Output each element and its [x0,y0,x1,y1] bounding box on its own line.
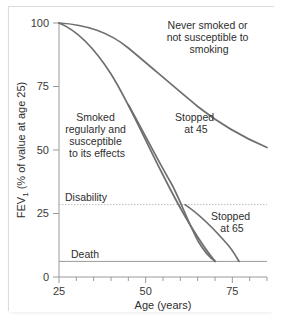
annotation-stopped-at-45-line-1: Stopped [175,111,214,123]
annotation-smoked-regularly-line-4: to its effects [69,147,125,159]
x-tick-label-75: 75 [226,285,238,297]
y-axis-title-rest: (% of value at age 25) [15,82,27,193]
annotation-never-smoked-line-2: not susceptible to [167,31,249,43]
annotation-stopped-at-45-line-2: at 45 [184,123,208,135]
annotation-smoked-regularly-line-2: regularly and [65,123,126,135]
y-tick-label-25: 25 [37,207,49,219]
fev1-decline-chart: 0 25 50 75 100 25 50 75 Age (years) FEV1… [9,7,275,312]
annotation-never-smoked-line-1: Never smoked or [168,19,248,31]
annotation-death: Death [71,248,99,260]
annotation-never-smoked-line-3: smoking [189,43,228,55]
x-tick-label-25: 25 [53,285,65,297]
plot-background [9,7,275,312]
annotation-disability: Disability [65,191,108,203]
annotation-smoked-regularly-line-1: Smoked [76,111,115,123]
x-axis-title: Age (years) [135,299,192,311]
figure-frame: 0 25 50 75 100 25 50 75 Age (years) FEV1… [8,6,274,311]
annotation-stopped-at-65-line-1: Stopped [211,210,250,222]
x-tick-label-50: 50 [140,285,152,297]
y-tick-label-0: 0 [43,271,49,283]
annotation-smoked-regularly-line-3: susceptible [69,135,122,147]
y-tick-label-50: 50 [37,144,49,156]
y-tick-label-75: 75 [37,80,49,92]
annotation-stopped-at-65-line-2: at 65 [220,222,244,234]
y-axis-title-main: FEV [15,196,27,218]
y-tick-label-100: 100 [31,17,49,29]
